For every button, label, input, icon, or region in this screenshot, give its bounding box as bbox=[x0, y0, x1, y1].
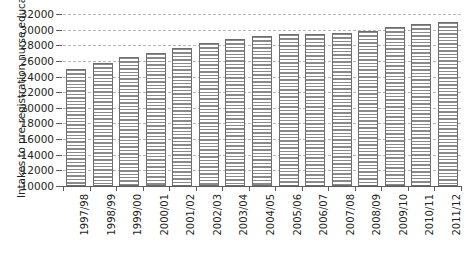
x-axis-label: 2007/08 bbox=[346, 194, 356, 236]
bar bbox=[279, 34, 299, 186]
x-axis-label: 1997/98 bbox=[80, 194, 90, 236]
y-tick-mark bbox=[56, 123, 62, 124]
bar-chart: Intakes to pre-registration nurse educat… bbox=[0, 0, 466, 260]
y-tick-mark bbox=[56, 170, 62, 171]
x-axis-label: 2011/12 bbox=[452, 194, 462, 236]
x-axis-label: 2008/09 bbox=[372, 194, 382, 236]
bar bbox=[252, 36, 272, 186]
y-tick-label: 30000 bbox=[21, 24, 54, 35]
y-tick-label: 16000 bbox=[21, 134, 54, 145]
x-tick-mark bbox=[249, 186, 250, 191]
y-tick-label: 10000 bbox=[21, 181, 54, 192]
x-tick-mark bbox=[381, 186, 382, 191]
bar bbox=[438, 22, 458, 186]
bars-group bbox=[63, 14, 461, 186]
x-tick-mark bbox=[434, 186, 435, 191]
y-tick-mark bbox=[56, 108, 62, 109]
y-tick-mark bbox=[56, 61, 62, 62]
y-tick-mark bbox=[56, 45, 62, 46]
x-tick-mark bbox=[408, 186, 409, 191]
y-tick-mark bbox=[56, 77, 62, 78]
bar bbox=[411, 24, 431, 186]
y-tick-label: 26000 bbox=[21, 56, 54, 67]
x-tick-mark bbox=[90, 186, 91, 191]
x-tick-mark bbox=[63, 186, 64, 191]
x-axis-label: 1999/00 bbox=[133, 194, 143, 236]
x-tick-mark bbox=[461, 186, 462, 191]
bar bbox=[199, 43, 219, 186]
y-tick-mark bbox=[56, 30, 62, 31]
bar bbox=[172, 48, 192, 186]
bar bbox=[332, 33, 352, 186]
bar bbox=[225, 39, 245, 186]
x-tick-mark bbox=[302, 186, 303, 191]
x-tick-mark bbox=[355, 186, 356, 191]
bar bbox=[358, 31, 378, 186]
y-tick-mark bbox=[56, 139, 62, 140]
x-tick-mark bbox=[169, 186, 170, 191]
y-tick-mark bbox=[56, 155, 62, 156]
x-axis-label: 2010/11 bbox=[425, 194, 435, 236]
y-tick-label: 22000 bbox=[21, 87, 54, 98]
bar bbox=[93, 63, 113, 186]
y-tick-label: 18000 bbox=[21, 118, 54, 129]
bar bbox=[66, 69, 86, 186]
bar bbox=[146, 53, 166, 186]
y-tick-label: 14000 bbox=[21, 149, 54, 160]
x-axis-label: 2001/02 bbox=[186, 194, 196, 236]
plot-area: 3200030000280002600024000220002000018000… bbox=[63, 14, 461, 186]
y-tick-mark bbox=[56, 92, 62, 93]
x-axis-label: 2006/07 bbox=[319, 194, 329, 236]
x-axis-label: 2002/03 bbox=[213, 194, 223, 236]
x-tick-mark bbox=[143, 186, 144, 191]
bar bbox=[305, 34, 325, 186]
x-axis-label: 2000/01 bbox=[160, 194, 170, 236]
x-axis-label: 2004/05 bbox=[266, 194, 276, 236]
x-tick-mark bbox=[196, 186, 197, 191]
x-tick-mark bbox=[116, 186, 117, 191]
y-tick-label: 32000 bbox=[21, 9, 54, 20]
x-axis-label: 2003/04 bbox=[239, 194, 249, 236]
x-tick-mark bbox=[222, 186, 223, 191]
y-tick-label: 28000 bbox=[21, 40, 54, 51]
bar bbox=[385, 27, 405, 186]
y-tick-label: 20000 bbox=[21, 103, 54, 114]
x-tick-mark bbox=[275, 186, 276, 191]
y-tick-label: 12000 bbox=[21, 165, 54, 176]
bar bbox=[119, 57, 139, 186]
y-tick-label: 24000 bbox=[21, 71, 54, 82]
y-tick-mark bbox=[56, 14, 62, 15]
x-axis-label: 2009/10 bbox=[399, 194, 409, 236]
x-axis-label: 1998/99 bbox=[107, 194, 117, 236]
x-axis-label: 2005/06 bbox=[293, 194, 303, 236]
x-tick-mark bbox=[328, 186, 329, 191]
